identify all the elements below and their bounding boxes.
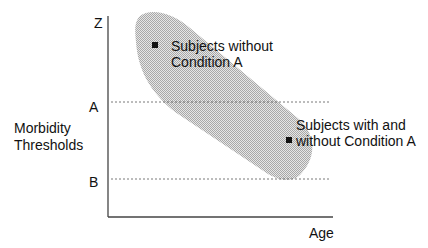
tick-z: Z (94, 15, 103, 31)
y-axis-title-line2: Thresholds (14, 137, 83, 153)
tick-b: B (89, 174, 98, 190)
marker-without-condition (152, 42, 158, 48)
y-axis-title-line1: Morbidity (14, 120, 71, 136)
annotation-1-line1: Subjects without (171, 38, 273, 54)
x-axis-title: Age (309, 225, 334, 241)
annotation-1-line2: Condition A (171, 54, 243, 70)
tick-a: A (89, 99, 98, 115)
marker-with-and-without-condition (286, 137, 292, 143)
annotation-2-line1: Subjects with and (296, 117, 406, 133)
annotation-2-line2: without Condition A (296, 133, 416, 149)
